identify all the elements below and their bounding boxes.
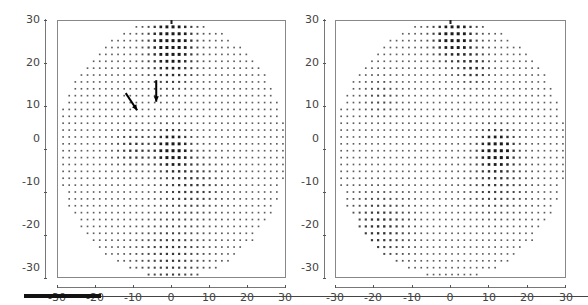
left-xtick-label: 20 — [232, 292, 262, 304]
x-tick-mark — [285, 285, 286, 288]
x-tick-mark — [133, 285, 134, 288]
scale-bar — [24, 294, 101, 298]
right-dot-density-map — [335, 20, 566, 278]
right-xtick-label: 20 — [512, 292, 542, 304]
x-tick-mark — [412, 285, 413, 288]
y-tick-mark — [44, 63, 47, 64]
right-ytick-label: 10 — [289, 99, 319, 111]
right-xtick-label: 10 — [474, 292, 504, 304]
x-tick-mark — [488, 285, 489, 288]
left-ytick-label: 10 — [10, 99, 40, 111]
right-ytick-label: 30 — [289, 14, 319, 26]
right-xtick-label: 30 — [551, 292, 581, 304]
y-tick-mark — [44, 106, 47, 107]
x-tick-mark — [209, 285, 210, 288]
x-tick-mark — [57, 285, 58, 288]
y-tick-mark — [323, 149, 326, 150]
left-ytick-label: 20 — [10, 57, 40, 69]
right-xtick-label: 0 — [435, 292, 465, 304]
left-ytick-label: -10 — [10, 176, 40, 188]
y-tick-mark — [44, 235, 47, 236]
right-ytick-label: 0 — [289, 133, 319, 145]
y-tick-mark — [323, 63, 326, 64]
left-xtick-label: 10 — [194, 292, 224, 304]
x-tick-mark — [95, 285, 96, 288]
x-tick-mark — [171, 285, 172, 288]
y-tick-mark — [323, 20, 326, 21]
x-tick-mark — [247, 285, 248, 288]
right-xtick-label: -20 — [358, 292, 388, 304]
right-ytick-label: 20 — [289, 57, 319, 69]
x-tick-mark — [373, 285, 374, 288]
right-xtick-label: -10 — [397, 292, 427, 304]
y-tick-mark — [323, 106, 326, 107]
left-ytick-label: 0 — [10, 133, 40, 145]
y-tick-mark — [323, 192, 326, 193]
y-tick-mark — [323, 278, 326, 279]
y-tick-mark — [44, 20, 47, 21]
left-ytick-label: -20 — [10, 219, 40, 231]
left-xtick-label: -10 — [118, 292, 148, 304]
y-tick-mark — [44, 278, 47, 279]
left-ytick-label: 30 — [10, 14, 40, 26]
right-ytick-label: -10 — [289, 176, 319, 188]
left-xtick-label: 30 — [270, 292, 300, 304]
left-dot-density-map — [57, 20, 286, 278]
right-ytick-label: -20 — [289, 219, 319, 231]
y-tick-mark — [323, 235, 326, 236]
y-tick-mark — [44, 192, 47, 193]
right-xtick-label: -30 — [320, 292, 350, 304]
left-ytick-label: -30 — [10, 262, 40, 274]
x-tick-mark — [335, 285, 336, 288]
y-tick-mark — [44, 149, 47, 150]
right-ytick-label: -30 — [289, 262, 319, 274]
x-tick-mark — [565, 285, 566, 288]
x-tick-mark — [527, 285, 528, 288]
bottom-rule — [100, 296, 588, 297]
x-tick-mark — [450, 285, 451, 288]
left-xtick-label: 0 — [156, 292, 186, 304]
